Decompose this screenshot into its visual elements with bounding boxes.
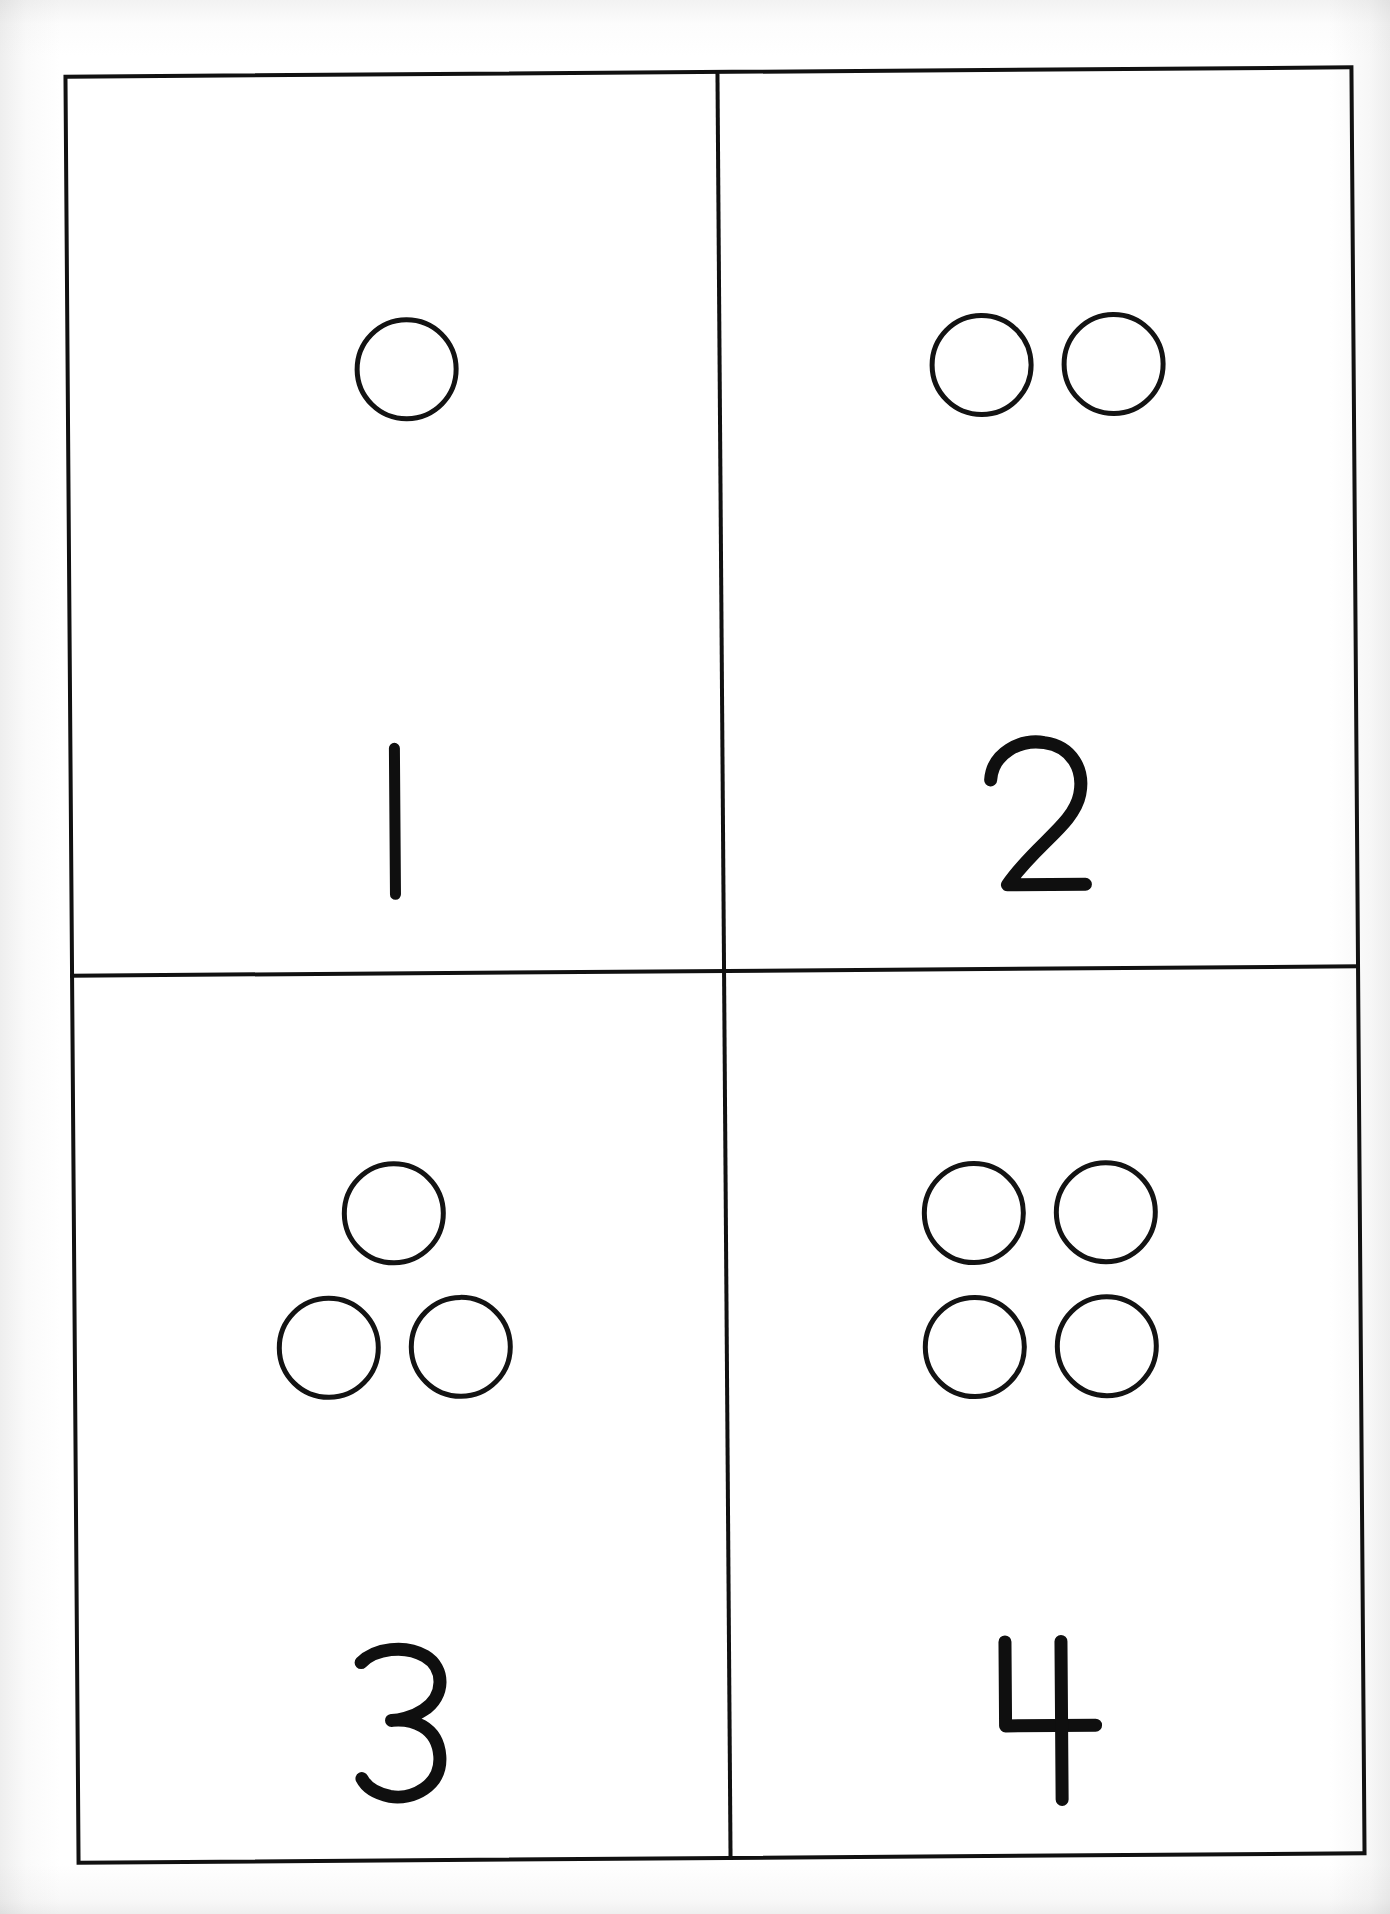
circle-icon bbox=[1061, 312, 1166, 417]
numeral-one-glyph bbox=[334, 742, 455, 903]
numeral-two-container: 2 bbox=[724, 725, 1359, 910]
dot-group-two bbox=[913, 216, 1205, 508]
numeral-three-container: 3 bbox=[75, 1633, 728, 1818]
circle-icon bbox=[929, 313, 1034, 418]
dot-group-four bbox=[907, 1129, 1199, 1421]
numeral-two-glyph bbox=[976, 732, 1107, 903]
flashcard-one-count: 1 bbox=[389, 72, 390, 73]
flashcard-three-count: 3 bbox=[396, 975, 397, 976]
flashcard-four[interactable]: 4 4 bbox=[726, 968, 1366, 1860]
flashcard-sheet: 1 1 2 2 bbox=[63, 65, 1366, 1864]
circle-icon bbox=[1053, 1160, 1158, 1265]
circle-icon bbox=[921, 1161, 1026, 1266]
numeral-four-glyph bbox=[983, 1633, 1114, 1809]
circle-icon bbox=[1054, 1294, 1159, 1399]
worksheet-page: Counting Cards 1-4 1 1 2 bbox=[0, 0, 1390, 1914]
circle-icon bbox=[408, 1294, 513, 1399]
dot-group-three bbox=[261, 1134, 553, 1426]
circle-icon bbox=[354, 317, 459, 422]
circle-icon bbox=[341, 1161, 446, 1266]
numeral-one-container: 1 bbox=[68, 730, 721, 915]
flashcard-three[interactable]: 3 3 bbox=[70, 973, 728, 1865]
flashcard-one[interactable]: 1 1 bbox=[63, 70, 722, 974]
circle-icon bbox=[276, 1295, 381, 1400]
numeral-four-container: 4 bbox=[731, 1628, 1366, 1813]
circle-icon bbox=[922, 1295, 1027, 1400]
flashcard-four-count: 4 bbox=[1043, 971, 1044, 972]
flashcard-two[interactable]: 2 2 bbox=[719, 65, 1360, 969]
document-title: Counting Cards 1-4 bbox=[0, 0, 1, 1]
numeral-three-glyph bbox=[341, 1640, 462, 1811]
flashcard-two-count: 2 bbox=[1036, 68, 1037, 69]
dot-group-one bbox=[261, 221, 553, 513]
